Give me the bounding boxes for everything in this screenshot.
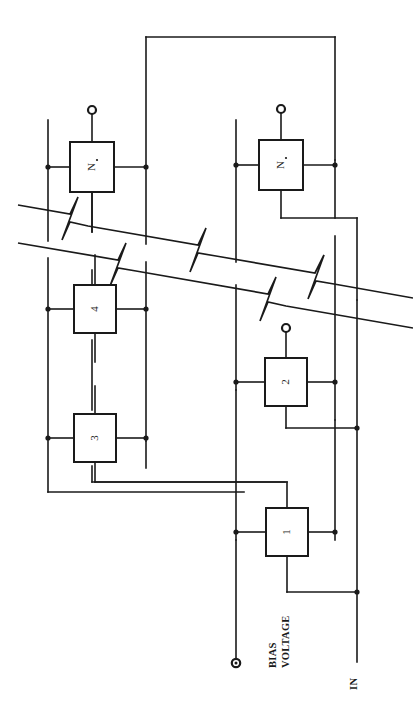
bias-voltage-label-line2: VOLTAGE xyxy=(280,615,291,668)
top-bracket xyxy=(146,37,335,160)
junction-dot xyxy=(354,425,359,430)
junction-dot xyxy=(332,529,337,534)
schematic-page: N N xyxy=(0,0,413,709)
stage-box-n[interactable]: N xyxy=(70,142,114,192)
junction-dot xyxy=(45,435,50,440)
stage-box-4[interactable]: 4 xyxy=(74,285,116,333)
terminal-stage-n-top[interactable] xyxy=(88,106,96,114)
junction-dot xyxy=(45,164,50,169)
circuit-schematic: N N xyxy=(0,0,413,709)
stage-n-prime-mark xyxy=(96,159,98,161)
stage-box-3[interactable]: 3 xyxy=(74,414,116,462)
junction-dot xyxy=(332,162,337,167)
stage-box-2-label: 2 xyxy=(279,379,291,385)
terminal-stage-2-top[interactable] xyxy=(282,324,290,332)
stage-box-n-label: N xyxy=(85,163,97,171)
junction-dot xyxy=(143,306,148,311)
junction-dot xyxy=(332,379,337,384)
stage-box-3-label: 3 xyxy=(88,435,100,441)
stage-box-1-label: 1 xyxy=(280,529,292,535)
terminal-stage-n-minus-1-top[interactable] xyxy=(277,105,285,113)
input-port-label: IN xyxy=(348,678,359,690)
stage-box-1[interactable]: 1 xyxy=(266,508,308,556)
bias-voltage-label-line1: BIAS xyxy=(267,642,278,668)
junction-dot xyxy=(143,435,148,440)
stage-box-4-label: 4 xyxy=(88,306,100,312)
junction-dot xyxy=(233,529,238,534)
junction-dot xyxy=(233,162,238,167)
junction-dot xyxy=(45,306,50,311)
junction-dot xyxy=(143,164,148,169)
stage-n-minus-1-prime-mark xyxy=(285,157,287,159)
stage-box-n-minus-1-label: N xyxy=(274,161,286,169)
junction-dot xyxy=(354,589,359,594)
stage-box-n-minus-1[interactable]: N xyxy=(259,140,303,190)
stage-box-2[interactable]: 2 xyxy=(265,358,307,406)
junction-dot xyxy=(233,379,238,384)
terminal-bias-voltage[interactable] xyxy=(232,659,240,667)
